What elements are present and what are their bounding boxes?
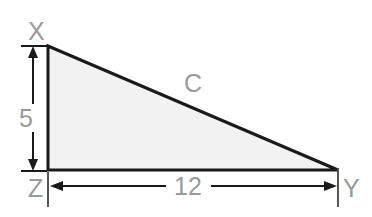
dimension-label-base: 12 bbox=[174, 172, 202, 200]
right-triangle-shape bbox=[48, 46, 338, 170]
vertex-label-x: X bbox=[28, 17, 45, 45]
horizontal-dimension-arrow-right bbox=[324, 181, 337, 191]
triangle-diagram-svg: X Y Z C 5 12 bbox=[0, 0, 372, 217]
side-label-c: C bbox=[184, 69, 202, 97]
vertical-dimension-arrow-up bbox=[28, 46, 38, 58]
horizontal-dimension-arrow-left bbox=[50, 181, 63, 191]
vertical-dimension-arrow-down bbox=[28, 159, 38, 171]
geometry-figure: X Y Z C 5 12 bbox=[0, 0, 372, 217]
vertex-label-y: Y bbox=[343, 174, 360, 202]
dimension-label-height: 5 bbox=[19, 104, 33, 132]
vertex-label-z: Z bbox=[28, 174, 43, 202]
